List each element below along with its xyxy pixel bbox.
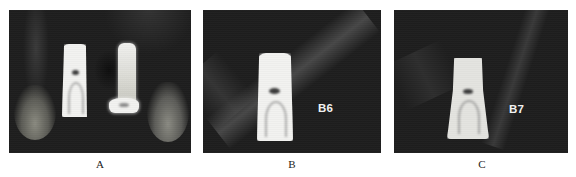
implant-a-left (62, 44, 88, 117)
implant-head-hole (119, 103, 129, 107)
implant-screw-hole (269, 88, 280, 94)
scan-panel-c: B7 (394, 10, 568, 153)
tooth-root-left (14, 85, 56, 140)
scan-label-b6: B6 (318, 102, 333, 114)
implant-a-right-head (109, 98, 139, 113)
implant-screw-hole (72, 70, 79, 75)
caption-b: B (282, 158, 302, 170)
scan-label-b7: B7 (509, 103, 524, 115)
tooth-root-right (147, 82, 189, 142)
implant-a-right-shaft (118, 43, 136, 103)
bone-ridge-left (394, 40, 462, 111)
implant-inner-structure (458, 100, 480, 134)
implant-b (257, 53, 293, 141)
bone-ridge-vertical (481, 10, 550, 150)
caption-c: C (472, 158, 492, 170)
scan-panel-b: B6 (203, 10, 381, 153)
caption-a: A (90, 158, 110, 170)
implant-inner-structure (265, 101, 287, 137)
implant-screw-hole (463, 89, 473, 94)
implant-inner-structure (68, 82, 84, 114)
scan-panel-a (9, 10, 191, 153)
